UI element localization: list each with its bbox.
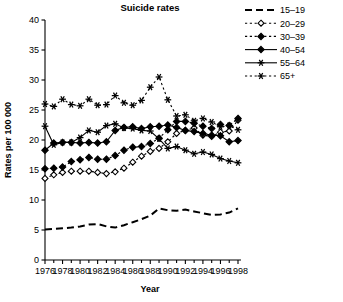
legend-item-55-64[interactable]: 55–64 <box>245 58 305 68</box>
data-point-marker <box>138 143 144 149</box>
data-point-marker <box>103 156 109 162</box>
suicide-rates-line-chart: Suicide rates051015202530354019761978198… <box>0 0 343 302</box>
data-point-marker <box>95 169 101 175</box>
data-point-marker <box>182 127 188 133</box>
data-point-marker <box>94 140 100 146</box>
data-point-marker <box>156 123 162 129</box>
legend-item-label: 55–64 <box>280 58 305 68</box>
data-point-marker <box>86 154 92 160</box>
y-tick-label: 25 <box>29 105 39 115</box>
legend-item-40-54[interactable]: 40–54 <box>245 45 305 55</box>
series-65+ <box>42 74 242 133</box>
data-point-marker <box>68 168 74 174</box>
data-point-marker <box>42 166 48 172</box>
y-tick-label: 30 <box>29 75 39 85</box>
data-point-marker <box>147 124 153 130</box>
data-point-marker <box>112 169 118 175</box>
data-point-marker <box>156 145 162 151</box>
legend-item-label: 40–54 <box>280 45 305 55</box>
data-point-marker <box>147 140 153 146</box>
data-point-marker <box>86 139 92 145</box>
data-point-marker <box>258 33 264 39</box>
data-point-marker <box>51 165 57 171</box>
data-point-marker <box>94 156 100 162</box>
data-point-marker <box>42 175 48 181</box>
data-point-marker <box>208 125 214 131</box>
legend-item-label: 20–29 <box>280 19 305 29</box>
data-point-marker <box>86 168 92 174</box>
data-point-marker <box>173 124 179 130</box>
data-point-marker <box>121 165 127 171</box>
data-point-marker <box>77 168 83 174</box>
data-point-marker <box>147 148 153 154</box>
data-point-marker <box>68 158 74 164</box>
data-point-marker <box>112 152 118 158</box>
y-tick-label: 20 <box>29 135 39 145</box>
x-axis-label: Year <box>140 284 160 294</box>
data-point-marker <box>182 118 188 124</box>
legend-item-20-29[interactable]: 20–29 <box>245 19 305 29</box>
data-point-marker <box>235 137 241 143</box>
data-point-marker <box>139 153 145 159</box>
data-point-marker <box>121 147 127 153</box>
data-point-marker <box>77 140 83 146</box>
data-point-marker <box>77 157 83 163</box>
y-tick-label: 35 <box>29 45 39 55</box>
data-point-marker <box>130 159 136 165</box>
chart-figure: Suicide rates051015202530354019761978198… <box>0 0 343 302</box>
data-point-marker <box>258 20 264 26</box>
legend-item-65+[interactable]: 65+ <box>245 71 295 81</box>
chart-title: Suicide rates <box>120 2 179 13</box>
data-point-marker <box>51 172 57 178</box>
data-point-marker <box>165 122 171 128</box>
legend-item-label: 65+ <box>280 71 295 81</box>
data-point-marker <box>200 123 206 129</box>
legend-item-30-39[interactable]: 30–39 <box>245 32 305 42</box>
y-tick-label: 0 <box>34 255 39 265</box>
series-line <box>45 208 238 229</box>
y-tick-label: 10 <box>29 195 39 205</box>
x-tick-label: 1998 <box>228 266 248 276</box>
data-point-marker <box>59 164 65 170</box>
data-point-marker <box>130 144 136 150</box>
data-point-marker <box>226 139 232 145</box>
y-tick-label: 40 <box>29 15 39 25</box>
data-point-marker <box>258 46 264 52</box>
legend-item-label: 30–39 <box>280 32 305 42</box>
y-tick-label: 15 <box>29 165 39 175</box>
y-tick-label: 5 <box>34 225 39 235</box>
legend-item-15-19[interactable]: 15–19 <box>245 5 305 15</box>
series-15-19 <box>45 208 238 229</box>
data-point-marker <box>103 171 109 177</box>
y-axis-label: Rates per 100 000 <box>3 102 13 178</box>
legend-item-label: 15–19 <box>280 5 305 15</box>
